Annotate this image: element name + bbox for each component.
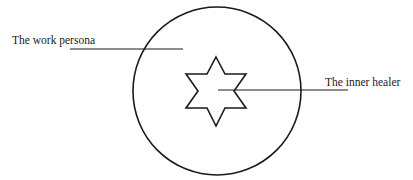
outer-circle-work-persona (133, 7, 301, 175)
star-icon-inner-healer (186, 57, 246, 126)
persona-diagram: The work persona The inner healer (0, 0, 413, 180)
label-inner-healer: The inner healer (325, 76, 401, 88)
label-work-persona: The work persona (12, 34, 95, 47)
